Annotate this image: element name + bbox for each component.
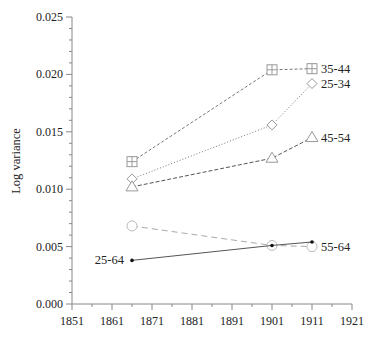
x-tick-label: 1871	[140, 314, 164, 328]
series-line	[132, 242, 312, 260]
series-line	[132, 84, 312, 179]
y-tick-label: 0.005	[36, 240, 63, 254]
series-label: 25-34	[321, 77, 351, 91]
dot-marker-icon	[270, 244, 274, 248]
x-tick-label: 1921	[340, 314, 364, 328]
series-line	[132, 226, 312, 247]
series-25-64: 25-64	[95, 240, 314, 267]
series-25-34: 25-34	[127, 77, 351, 184]
x-tick-label: 1911	[300, 314, 324, 328]
x-tick-label: 1881	[180, 314, 204, 328]
series-line	[132, 69, 312, 162]
x-tick-label: 1891	[220, 314, 244, 328]
diamond-marker-icon	[267, 120, 277, 130]
y-tick-label: 0.015	[36, 125, 63, 139]
series-label: 55-64	[321, 240, 351, 254]
y-axis-ticks: 0.0000.0050.0100.0150.0200.025	[36, 10, 72, 311]
y-tick-label: 0.025	[36, 10, 63, 24]
dot-marker-icon	[310, 240, 314, 244]
x-tick-label: 1901	[260, 314, 284, 328]
x-tick-label: 1851	[60, 314, 84, 328]
series-group: 35-4425-3445-5455-6425-64	[95, 62, 351, 268]
y-tick-label: 0.010	[36, 182, 63, 196]
line-chart: 0.0000.0050.0100.0150.0200.025 185118611…	[0, 0, 372, 339]
diamond-marker-icon	[307, 79, 317, 89]
triangle-marker-icon	[266, 152, 278, 162]
x-tick-label: 1861	[100, 314, 124, 328]
triangle-marker-icon	[126, 181, 138, 191]
series-label: 35-44	[321, 62, 351, 76]
y-tick-label: 0.020	[36, 67, 63, 81]
y-axis-title: Log variance	[9, 128, 23, 194]
series-45-54: 45-54	[126, 131, 351, 191]
series-line	[132, 138, 312, 187]
x-axis-ticks: 18511861187118811891190119111921	[60, 304, 364, 328]
y-tick-label: 0.000	[36, 297, 63, 311]
dot-marker-icon	[130, 259, 134, 263]
series-label: 25-64	[95, 253, 125, 267]
series-label: 45-54	[321, 131, 351, 145]
circle-marker-icon	[127, 221, 137, 231]
series-35-44: 35-44	[127, 62, 351, 167]
triangle-marker-icon	[306, 132, 318, 142]
